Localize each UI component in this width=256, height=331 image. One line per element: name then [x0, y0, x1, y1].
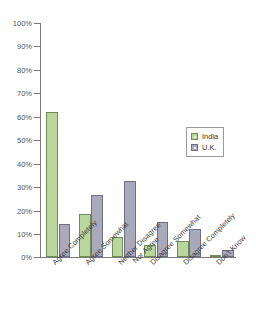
y-axis-label-50: 50%	[0, 136, 32, 145]
y-axis-label-30: 30%	[0, 183, 32, 192]
legend-swatch-uk-icon	[191, 144, 198, 151]
y-axis-label-70: 70%	[0, 89, 32, 98]
y-axis-label-90: 90%	[0, 42, 32, 51]
y-axis-label-20: 20%	[0, 207, 32, 216]
legend-item-uk[interactable]: U.K.	[191, 142, 218, 153]
bar-india-0	[46, 112, 58, 257]
y-axis-label-0: 0%	[0, 253, 32, 262]
bar-chart: 100% 90% 80% 70% 60% 50% 40% 30% 20% 10%…	[0, 0, 256, 331]
y-axis-label-40: 40%	[0, 160, 32, 169]
y-axis-label-10: 10%	[0, 230, 32, 239]
y-axis-label-60: 60%	[0, 113, 32, 122]
y-axis-label-80: 80%	[0, 66, 32, 75]
legend-swatch-india-icon	[191, 133, 198, 140]
legend-label-india: India	[202, 132, 218, 141]
legend: India U.K.	[186, 127, 224, 157]
legend-label-uk: U.K.	[202, 143, 217, 152]
y-axis-label-100: 100%	[0, 19, 32, 28]
legend-item-india[interactable]: India	[191, 131, 218, 142]
